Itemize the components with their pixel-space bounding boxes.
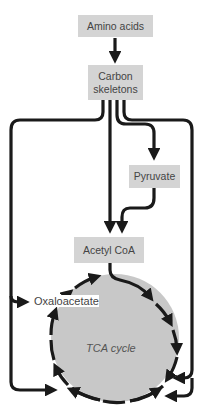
tca-cycle-label: TCA cycle (86, 342, 136, 354)
oxaloacetate-label: Oxaloacetate (34, 295, 99, 307)
carbon-skeletons-label-line2: skeletons (93, 83, 137, 96)
amino-acids-label: Amino acids (87, 20, 144, 33)
amino-acids-node: Amino acids (78, 15, 153, 37)
acetyl-coa-label: Acetyl CoA (83, 244, 135, 257)
acetyl-coa-node: Acetyl CoA (74, 237, 144, 263)
pyruvate-label: Pyruvate (134, 170, 175, 183)
pyruvate-node: Pyruvate (129, 165, 180, 188)
carbon-skeletons-label-line1: Carbon (98, 70, 132, 83)
carbon-skeletons-node: Carbon skeletons (88, 65, 143, 100)
tca-cycle-circle (51, 274, 179, 402)
